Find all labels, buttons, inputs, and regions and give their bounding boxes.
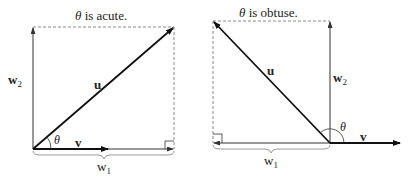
right-angle-marker [213, 134, 222, 143]
theta-label: θ [54, 133, 60, 147]
w1-brace [33, 151, 174, 159]
vector-projection-diagram: θ is acute. w2 v u θ w1 θ is obtuse. w2 [0, 0, 409, 184]
obtuse-title: θ is obtuse. [239, 5, 298, 20]
w1-label: w1 [97, 159, 111, 176]
v-label: v [75, 135, 82, 150]
right-angle-marker [165, 141, 174, 149]
w2-label: w2 [8, 72, 22, 89]
u-vector [33, 28, 173, 149]
theta-label: θ [340, 120, 346, 134]
w1-brace [213, 145, 330, 153]
acute-diagram: θ is acute. w2 v u θ w1 [8, 8, 174, 176]
v-label: v [360, 129, 367, 144]
acute-title: θ is acute. [75, 8, 127, 23]
w2-label: w2 [333, 70, 347, 87]
theta-arc [47, 137, 51, 149]
u-label: u [94, 77, 101, 92]
w1-label: w1 [264, 153, 278, 170]
u-vector [214, 22, 330, 143]
obtuse-diagram: θ is obtuse. w2 v u θ w1 [213, 5, 400, 170]
u-label: u [267, 63, 274, 78]
